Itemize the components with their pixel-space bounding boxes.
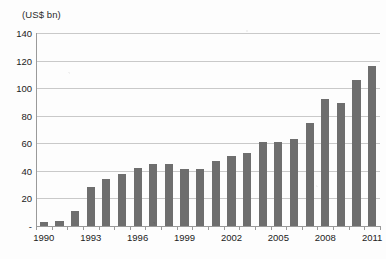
x-tick-label-2005: 2005	[268, 232, 289, 243]
bar-2008	[321, 99, 329, 226]
y-axis-tick-labels: -20406080100120140	[0, 33, 32, 226]
x-tick-mark-22	[380, 226, 381, 230]
x-tick-mark-4	[99, 226, 100, 230]
bar-2005	[274, 142, 282, 226]
x-tick-label-1993: 1993	[80, 232, 101, 243]
bar-chart-figure: (US$ bn) -20406080100120140 199019931996…	[0, 0, 386, 259]
x-tick-label-1996: 1996	[127, 232, 148, 243]
bar-2011	[368, 66, 376, 226]
y-tick-label-60: 60	[0, 138, 32, 149]
x-tick-label-2011: 2011	[362, 232, 382, 243]
bar-2010	[352, 80, 360, 226]
bar-2007	[306, 123, 314, 226]
x-tick-mark-11	[208, 226, 209, 230]
y-tick-label-80: 80	[0, 110, 32, 121]
y-tick-label-140: 140	[0, 28, 32, 39]
bar-1999	[180, 169, 188, 226]
x-tick-mark-9	[177, 226, 178, 230]
x-tick-mark-2	[67, 226, 68, 230]
x-tick-mark-12	[224, 226, 225, 230]
x-tick-mark-21	[364, 226, 365, 230]
y-tick-label-100: 100	[0, 83, 32, 94]
x-tick-mark-5	[114, 226, 115, 230]
bar-2000	[196, 169, 204, 226]
x-tick-label-2008: 2008	[315, 232, 336, 243]
bar-1992	[71, 211, 79, 226]
x-tick-mark-20	[349, 226, 350, 230]
bar-1994	[102, 179, 110, 226]
y-tick-label-120: 120	[0, 55, 32, 66]
x-tick-mark-14	[255, 226, 256, 230]
bar-1996	[134, 168, 142, 226]
x-tick-mark-7	[145, 226, 146, 230]
x-tick-label-1999: 1999	[174, 232, 195, 243]
x-axis-tick-marks	[36, 226, 380, 230]
x-tick-mark-10	[192, 226, 193, 230]
bar-2002	[227, 156, 235, 226]
x-tick-mark-6	[130, 226, 131, 230]
bar-1993	[87, 187, 95, 226]
y-tick-label-40: 40	[0, 165, 32, 176]
x-tick-mark-13	[239, 226, 240, 230]
x-tick-mark-16	[286, 226, 287, 230]
y-tick-label-0: -	[0, 221, 32, 232]
x-tick-mark-17	[302, 226, 303, 230]
bar-2001	[212, 161, 220, 226]
bar-2009	[337, 103, 345, 226]
bar-1995	[118, 174, 126, 226]
bar-1998	[165, 164, 173, 226]
bar-2006	[290, 139, 298, 226]
x-tick-label-2002: 2002	[221, 232, 242, 243]
bars-layer	[36, 33, 380, 226]
x-axis-tick-labels: 19901993199619992002200520082011	[36, 232, 380, 248]
bar-1997	[149, 164, 157, 226]
x-tick-mark-19	[333, 226, 334, 230]
y-tick-label-20: 20	[0, 193, 32, 204]
x-tick-mark-18	[317, 226, 318, 230]
bar-2003	[243, 153, 251, 226]
x-tick-mark-0	[36, 226, 37, 230]
x-tick-mark-3	[83, 226, 84, 230]
x-tick-label-1990: 1990	[33, 232, 54, 243]
y-axis-unit-label: (US$ bn)	[22, 9, 61, 20]
bar-2004	[259, 142, 267, 226]
x-tick-mark-8	[161, 226, 162, 230]
x-tick-mark-1	[52, 226, 53, 230]
x-tick-mark-15	[271, 226, 272, 230]
